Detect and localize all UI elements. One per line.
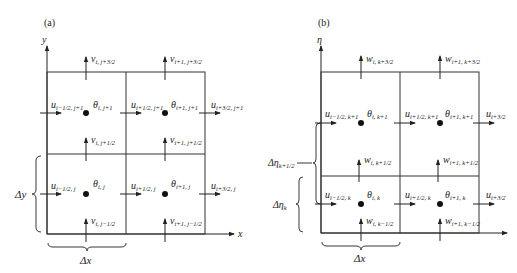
u-label: ui+1/2, j xyxy=(131,180,156,192)
deta-k-label: Δηk xyxy=(272,199,287,211)
theta-point-icon xyxy=(437,120,443,126)
y-axis-label: y xyxy=(41,34,47,45)
panel-b-label: (b) xyxy=(318,17,330,29)
v-label: vi+1, j+1/2 xyxy=(170,134,202,146)
theta-point-icon xyxy=(437,201,443,207)
panel-a-label: (a) xyxy=(44,17,55,29)
theta-point-icon xyxy=(83,110,89,116)
theta-point-icon xyxy=(358,201,364,207)
dx-brace-icon xyxy=(322,242,400,250)
w-label: wi+1, k+3/2 xyxy=(445,53,481,65)
dy-brace-icon xyxy=(32,156,41,232)
theta-point-icon xyxy=(358,120,364,126)
dx-label: Δx xyxy=(353,252,365,264)
theta-label: θi+1, j+1 xyxy=(171,99,198,111)
theta-label: θi+1, j xyxy=(171,178,191,190)
u-label: ui+3/2 xyxy=(486,189,506,201)
staggered-grid-diagram: (a) y x θi, j+1 θi+1, j+1 θi, j θi+1, j … xyxy=(0,0,517,273)
w-label: wi+1, k−1/2 xyxy=(445,215,481,227)
w-label: wi+1, k+1/2 xyxy=(443,154,479,166)
v-label: vi, j−1/2 xyxy=(91,215,116,227)
v-label: vi, j+1/2 xyxy=(91,134,116,146)
eta-axis-label: η xyxy=(317,34,322,45)
theta-point-icon xyxy=(83,191,89,197)
u-label: ui+1/2, j+1 xyxy=(131,99,163,111)
u-label: ui+1/2, k+1 xyxy=(405,108,438,120)
theta-label: θi, k+1 xyxy=(367,108,388,120)
deta-half-brace-icon xyxy=(313,123,320,204)
dy-label: Δy xyxy=(14,188,26,200)
theta-label: θi, k xyxy=(367,189,380,201)
u-label: ui+3/2, j+1 xyxy=(211,99,243,111)
u-label: ui−1/2, k xyxy=(325,189,351,201)
dx-label: Δx xyxy=(79,254,91,266)
theta-label: θi+1, k+1 xyxy=(445,108,473,120)
w-label: wi, k−1/2 xyxy=(366,215,394,227)
u-label: ui+3/2, j xyxy=(211,180,236,192)
dx-brace-icon xyxy=(48,243,126,251)
theta-label: θi, j xyxy=(93,178,105,190)
u-label: ui−1/2, j+1 xyxy=(51,99,83,111)
theta-label: θi+1, k xyxy=(445,189,466,201)
u-label: ui+1/2, k xyxy=(405,189,431,201)
w-label: wi, k+3/2 xyxy=(366,53,394,65)
theta-point-icon xyxy=(162,191,168,197)
w-label: wi, k+1/2 xyxy=(364,154,392,166)
theta-label: θi, j+1 xyxy=(93,99,112,111)
panel-a: (a) y x θi, j+1 θi+1, j+1 θi, j θi+1, j … xyxy=(14,17,243,266)
v-label: vi, j+3/2 xyxy=(91,53,116,65)
u-label: ui+3/2 xyxy=(486,108,506,120)
u-label: ui−1/2, j xyxy=(51,180,76,192)
deta-half-label: Δηk+1/2 xyxy=(267,157,295,169)
deta-k-brace-icon xyxy=(296,177,303,232)
panel-b: (b) η θi, k+1 θi+1, k+1 θi, k θi+1, k ui… xyxy=(267,17,507,264)
x-axis-label: x xyxy=(237,228,243,239)
u-label: ui−1/2, k+1 xyxy=(325,108,358,120)
v-label: vi+1, j+3/2 xyxy=(170,53,202,65)
v-label: vi+1, j−1/2 xyxy=(170,215,202,227)
